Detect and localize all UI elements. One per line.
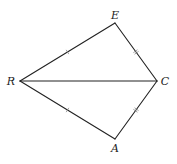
vertex-label-a: A <box>111 143 119 154</box>
vertex-label-e: E <box>111 10 119 21</box>
segment-ec <box>115 23 157 81</box>
kite-diagram <box>0 0 177 164</box>
vertex-label-c: C <box>161 76 169 87</box>
segment-ac <box>115 81 157 139</box>
vertex-label-r: R <box>7 76 15 87</box>
segments-group <box>20 23 157 139</box>
